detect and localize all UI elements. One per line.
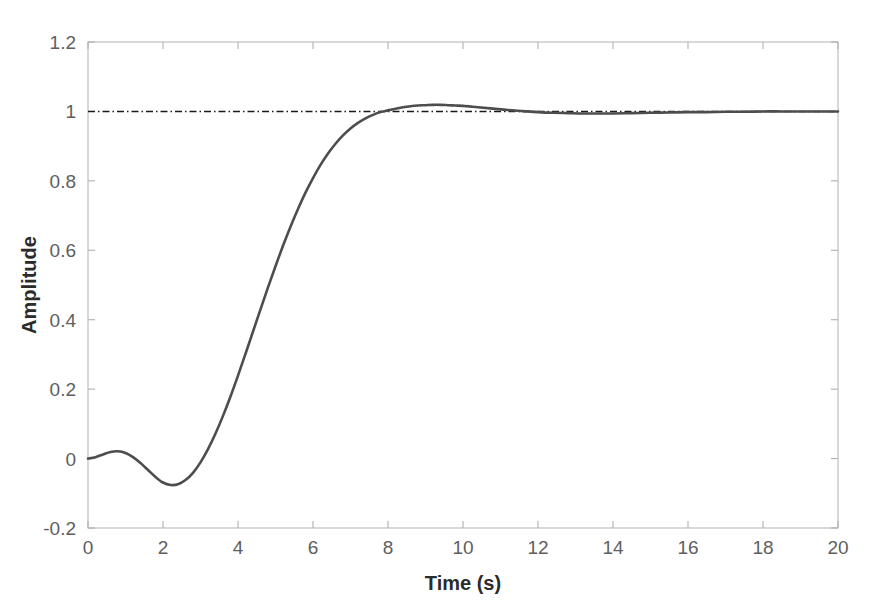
x-tick-label: 16 [677,537,698,558]
y-tick-label: 1 [65,101,76,122]
x-tick-label: 18 [752,537,773,558]
x-tick-label: 6 [308,537,319,558]
x-axis-title: Time (s) [425,572,501,594]
y-tick-label: 0.6 [50,240,76,261]
x-tick-label: 2 [158,537,169,558]
step-response-chart: 02468101214161820 -0.200.20.40.60.811.2 … [0,0,877,606]
x-tick-label: 0 [83,537,94,558]
x-tick-label: 12 [527,537,548,558]
y-tick-label: 0 [65,449,76,470]
chart-background [0,0,877,606]
figure-canvas: 02468101214161820 -0.200.20.40.60.811.2 … [0,0,877,606]
x-tick-label: 20 [827,537,848,558]
y-tick-label: 0.4 [50,310,77,331]
y-tick-label: 1.2 [50,32,76,53]
y-tick-label: 0.8 [50,171,76,192]
x-tick-label: 4 [233,537,244,558]
y-tick-label: 0.2 [50,379,76,400]
x-tick-label: 8 [383,537,394,558]
y-tick-label: -0.2 [43,518,76,539]
x-tick-label: 10 [452,537,473,558]
x-tick-label: 14 [602,537,624,558]
y-axis-title: Amplitude [18,236,40,334]
